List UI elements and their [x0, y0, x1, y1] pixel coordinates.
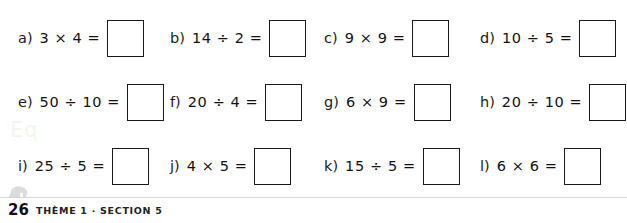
- exercise-item-a: a) 3 × 4 =: [0, 12, 160, 64]
- exercise-row: e) 50 ÷ 10 = f) 20 ÷ 4 = g) 6 × 9 = h) 2…: [0, 76, 627, 128]
- exercise-expression: 25 ÷ 5 =: [35, 158, 106, 174]
- exercise-expression: 6 × 9 =: [346, 94, 407, 110]
- exercise-grid: a) 3 × 4 = b) 14 ÷ 2 = c) 9 × 9 = d) 10 …: [0, 4, 627, 184]
- exercise-expression: 9 × 9 =: [345, 30, 406, 46]
- exercise-item-c: c) 9 × 9 =: [314, 12, 470, 64]
- answer-box-g[interactable]: [414, 84, 451, 121]
- exercise-label: j): [170, 158, 180, 174]
- exercise-expression: 15 ÷ 5 =: [345, 158, 416, 174]
- exercise-item-l: l) 6 × 6 =: [470, 140, 627, 192]
- worksheet-page: Eq a) 3 × 4 = b) 14 ÷ 2 = c) 9 × 9 = d) …: [0, 0, 627, 223]
- exercise-row: a) 3 × 4 = b) 14 ÷ 2 = c) 9 × 9 = d) 10 …: [0, 12, 627, 64]
- exercise-item-d: d) 10 ÷ 5 =: [470, 12, 627, 64]
- exercise-item-e: e) 50 ÷ 10 =: [0, 76, 160, 128]
- exercise-label: c): [324, 30, 338, 46]
- exercise-label: k): [324, 158, 338, 174]
- exercise-label: l): [480, 158, 490, 174]
- footer-section-label: THÈME 1 · SECTION 5: [36, 205, 163, 216]
- exercise-expression: 50 ÷ 10 =: [40, 94, 120, 110]
- exercise-item-j: j) 4 × 5 =: [160, 140, 314, 192]
- exercise-label: f): [170, 94, 181, 110]
- exercise-expression: 14 ÷ 2 =: [192, 30, 263, 46]
- answer-box-i[interactable]: [112, 148, 149, 185]
- answer-box-c[interactable]: [412, 20, 449, 57]
- page-footer: 26 THÈME 1 · SECTION 5: [0, 197, 627, 223]
- exercise-label: d): [480, 30, 495, 46]
- exercise-label: b): [170, 30, 185, 46]
- exercise-expression: 10 ÷ 5 =: [502, 30, 573, 46]
- answer-box-a[interactable]: [107, 20, 144, 57]
- answer-box-j[interactable]: [254, 148, 291, 185]
- footer-divider: [0, 197, 627, 198]
- answer-box-f[interactable]: [265, 84, 302, 121]
- page-number: 26: [8, 201, 29, 219]
- exercise-expression: 20 ÷ 10 =: [502, 94, 582, 110]
- exercise-label: e): [18, 94, 33, 110]
- elephant-icon: [8, 185, 30, 199]
- exercise-row: i) 25 ÷ 5 = j) 4 × 5 = k) 15 ÷ 5 = l) 6 …: [0, 140, 627, 192]
- answer-box-l[interactable]: [564, 148, 601, 185]
- answer-box-h[interactable]: [589, 84, 626, 121]
- answer-box-b[interactable]: [269, 20, 306, 57]
- exercise-item-k: k) 15 ÷ 5 =: [314, 140, 470, 192]
- exercise-label: i): [18, 158, 28, 174]
- exercise-item-b: b) 14 ÷ 2 =: [160, 12, 314, 64]
- exercise-item-g: g) 6 × 9 =: [314, 76, 470, 128]
- exercise-label: h): [480, 94, 495, 110]
- answer-box-e[interactable]: [127, 84, 164, 121]
- exercise-label: a): [18, 30, 33, 46]
- exercise-expression: 20 ÷ 4 =: [188, 94, 259, 110]
- answer-box-k[interactable]: [423, 148, 460, 185]
- exercise-label: g): [324, 94, 339, 110]
- exercise-expression: 3 × 4 =: [40, 30, 101, 46]
- exercise-item-f: f) 20 ÷ 4 =: [160, 76, 314, 128]
- exercise-expression: 6 × 6 =: [497, 158, 558, 174]
- answer-box-d[interactable]: [579, 20, 616, 57]
- exercise-expression: 4 × 5 =: [187, 158, 248, 174]
- exercise-item-h: h) 20 ÷ 10 =: [470, 76, 627, 128]
